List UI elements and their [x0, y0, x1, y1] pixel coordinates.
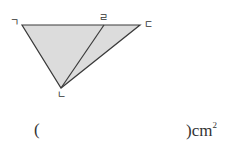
- triangle-diagram: [0, 0, 228, 110]
- triangle-gnd: [22, 25, 140, 88]
- vertex-label-r: ㄹ: [99, 13, 108, 23]
- answer-open-paren: (: [34, 121, 40, 138]
- answer-unit: )cm2: [186, 121, 217, 139]
- vertex-label-n: ㄴ: [57, 90, 66, 100]
- unit-text: cm: [192, 121, 213, 140]
- vertex-label-g: ㄱ: [10, 18, 19, 28]
- triangle-figure: ㄱ ㄹ ㄷ ㄴ: [0, 0, 228, 110]
- vertex-label-d: ㄷ: [144, 20, 153, 30]
- unit-exponent: 2: [212, 120, 217, 130]
